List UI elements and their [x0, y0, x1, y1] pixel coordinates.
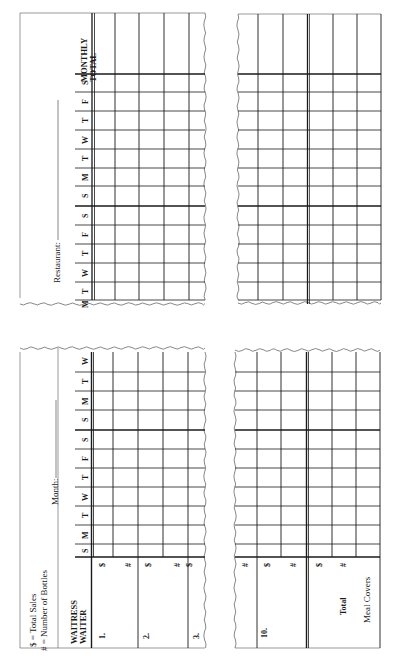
entry-cell[interactable]: [113, 487, 138, 506]
entry-cell[interactable]: [164, 130, 189, 149]
entry-cell[interactable]: [257, 372, 281, 391]
entry-cell[interactable]: [238, 74, 258, 92]
entry-cell[interactable]: [281, 410, 307, 430]
entry-cell[interactable]: [113, 391, 138, 410]
entry-cell[interactable]: [189, 282, 205, 300]
entry-cell[interactable]: [283, 186, 308, 206]
entry-cell[interactable]: [94, 449, 114, 468]
entry-cell[interactable]: [238, 263, 258, 282]
entry-cell[interactable]: [115, 92, 139, 111]
entry-cell[interactable]: [138, 430, 163, 449]
entry-cell[interactable]: [258, 282, 283, 300]
entry-cell[interactable]: [257, 525, 281, 544]
entry-cell[interactable]: [257, 487, 281, 506]
entry-cell[interactable]: [257, 544, 281, 557]
entry-cell[interactable]: [235, 430, 257, 449]
entry-cell[interactable]: [333, 74, 357, 92]
entry-cell[interactable]: [139, 149, 164, 168]
entry-cell[interactable]: [163, 430, 188, 449]
entry-cell[interactable]: [238, 244, 258, 263]
entry-cell[interactable]: [257, 352, 281, 372]
entry-cell[interactable]: [235, 468, 257, 487]
entry-cell[interactable]: [257, 468, 281, 487]
entry-cell[interactable]: [235, 410, 257, 430]
entry-cell[interactable]: [138, 468, 163, 487]
entry-cell[interactable]: [95, 130, 116, 149]
entry-cell[interactable]: [95, 206, 116, 225]
entry-cell[interactable]: [164, 149, 189, 168]
entry-cell[interactable]: [235, 372, 257, 391]
entry-cell[interactable]: [113, 468, 138, 487]
entry-cell[interactable]: [189, 149, 205, 168]
entry-cell[interactable]: [310, 263, 334, 282]
entry-cell[interactable]: [188, 410, 205, 430]
entry-cell[interactable]: [164, 263, 189, 282]
entry-cell[interactable]: [188, 372, 205, 391]
entry-cell[interactable]: [115, 168, 139, 186]
restaurant-field[interactable]: [52, 100, 62, 240]
entry-cell[interactable]: [113, 544, 138, 557]
entry-cell[interactable]: [310, 74, 334, 92]
entry-cell[interactable]: [332, 506, 356, 525]
entry-cell[interactable]: [332, 544, 356, 557]
entry-cell[interactable]: [189, 111, 205, 130]
entry-cell[interactable]: [283, 168, 308, 186]
entry-cell[interactable]: [310, 186, 334, 206]
entry-cell[interactable]: [94, 525, 114, 544]
entry-cell[interactable]: [309, 391, 333, 410]
entry-cell[interactable]: [189, 263, 205, 282]
entry-cell[interactable]: [238, 186, 258, 206]
entry-cell[interactable]: [94, 391, 114, 410]
entry-cell[interactable]: [333, 168, 357, 186]
entry-cell[interactable]: [138, 544, 163, 557]
entry-cell[interactable]: [356, 372, 380, 391]
entry-cell[interactable]: [113, 506, 138, 525]
entry-cell[interactable]: [115, 130, 139, 149]
entry-cell[interactable]: [238, 111, 258, 130]
entry-cell[interactable]: [258, 111, 283, 130]
entry-cell[interactable]: [333, 225, 357, 244]
entry-cell[interactable]: [188, 449, 205, 468]
entry-cell[interactable]: [283, 149, 308, 168]
entry-cell[interactable]: [357, 149, 381, 168]
entry-cell[interactable]: [281, 525, 307, 544]
entry-cell[interactable]: [163, 449, 188, 468]
entry-cell[interactable]: [138, 525, 163, 544]
entry-cell[interactable]: [310, 168, 334, 186]
entry-cell[interactable]: [281, 487, 307, 506]
entry-cell[interactable]: [258, 149, 283, 168]
entry-cell[interactable]: [139, 282, 164, 300]
entry-cell[interactable]: [189, 186, 205, 206]
entry-cell[interactable]: [115, 206, 139, 225]
entry-cell[interactable]: [163, 372, 188, 391]
entry-cell[interactable]: [94, 430, 114, 449]
entry-cell[interactable]: [164, 282, 189, 300]
entry-cell[interactable]: [357, 244, 381, 263]
entry-cell[interactable]: [332, 468, 356, 487]
entry-cell[interactable]: [332, 410, 356, 430]
entry-cell[interactable]: [356, 352, 380, 372]
entry-cell[interactable]: [189, 92, 205, 111]
entry-cell[interactable]: [188, 468, 205, 487]
entry-cell[interactable]: [283, 74, 308, 92]
entry-cell[interactable]: [115, 186, 139, 206]
entry-cell[interactable]: [356, 487, 380, 506]
entry-cell[interactable]: [258, 74, 283, 92]
entry-cell[interactable]: [309, 525, 333, 544]
entry-cell[interactable]: [310, 206, 334, 225]
entry-cell[interactable]: [238, 225, 258, 244]
entry-cell[interactable]: [332, 372, 356, 391]
entry-cell[interactable]: [281, 544, 307, 557]
entry-cell[interactable]: [333, 149, 357, 168]
entry-cell[interactable]: [235, 544, 257, 557]
entry-cell[interactable]: [163, 468, 188, 487]
entry-cell[interactable]: [139, 263, 164, 282]
entry-cell[interactable]: [283, 282, 308, 300]
month-field[interactable]: [50, 400, 60, 478]
entry-cell[interactable]: [356, 410, 380, 430]
entry-cell[interactable]: [188, 352, 205, 372]
entry-cell[interactable]: [163, 544, 188, 557]
entry-cell[interactable]: [356, 449, 380, 468]
entry-cell[interactable]: [310, 282, 334, 300]
entry-cell[interactable]: [95, 92, 116, 111]
